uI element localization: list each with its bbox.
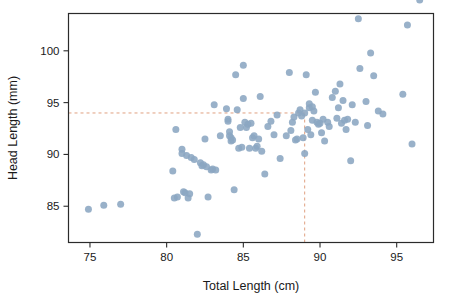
- data-point: [217, 132, 224, 139]
- data-point: [356, 65, 363, 72]
- data-point: [370, 72, 377, 79]
- data-point: [303, 71, 310, 78]
- data-point: [211, 101, 218, 108]
- x-tick-label: 90: [314, 251, 327, 263]
- data-point: [379, 111, 386, 118]
- data-point: [343, 126, 350, 133]
- data-point: [300, 134, 307, 141]
- data-point: [399, 91, 406, 98]
- data-point: [246, 145, 253, 152]
- data-point: [344, 116, 351, 123]
- y-tick-label: 95: [47, 97, 60, 109]
- data-point: [355, 15, 362, 22]
- data-point: [340, 97, 347, 104]
- data-point: [326, 123, 333, 130]
- data-point: [409, 141, 416, 148]
- data-point: [172, 126, 179, 133]
- data-point: [186, 190, 193, 197]
- data-point: [223, 105, 230, 112]
- data-point: [287, 127, 294, 134]
- x-tick-label: 80: [160, 251, 173, 263]
- data-point: [404, 21, 411, 28]
- data-point: [321, 137, 328, 144]
- data-point: [329, 94, 336, 101]
- data-point: [347, 157, 354, 164]
- data-point: [117, 201, 124, 208]
- y-tick-label: 100: [40, 45, 59, 57]
- data-point: [248, 120, 255, 127]
- scatter-plot-figure: 7580859095 859095100 Total Length (cm) H…: [0, 0, 454, 307]
- y-axis-title: Head Length (mm): [6, 76, 20, 180]
- data-point: [349, 101, 356, 108]
- x-tick-label: 85: [237, 251, 250, 263]
- data-point: [267, 118, 274, 125]
- data-point: [234, 106, 241, 113]
- data-point: [194, 231, 201, 238]
- data-point: [212, 166, 219, 173]
- x-tick-label: 95: [390, 251, 403, 263]
- data-point: [100, 202, 107, 209]
- data-point: [335, 104, 342, 111]
- data-point: [301, 150, 308, 157]
- y-tick-label: 90: [47, 148, 60, 160]
- data-point: [277, 155, 284, 162]
- x-axis-title: Total Length (cm): [203, 279, 300, 293]
- data-point: [310, 107, 317, 114]
- plot-canvas: 7580859095 859095100 Total Length (cm) H…: [0, 0, 454, 307]
- data-point: [240, 62, 247, 69]
- data-point: [261, 171, 268, 178]
- data-point: [229, 136, 236, 143]
- data-point: [232, 71, 239, 78]
- data-point: [307, 131, 314, 138]
- data-point: [255, 135, 262, 142]
- data-point: [352, 119, 359, 126]
- data-point: [205, 193, 212, 200]
- data-point: [238, 144, 245, 151]
- data-point: [231, 186, 238, 193]
- data-point: [191, 156, 198, 163]
- data-point: [258, 148, 265, 155]
- data-point: [364, 122, 371, 129]
- data-point: [174, 193, 181, 200]
- data-point: [257, 93, 264, 100]
- data-point: [363, 98, 370, 105]
- data-point: [169, 168, 176, 175]
- x-tick-label: 75: [84, 251, 97, 263]
- data-point: [225, 118, 232, 125]
- data-point: [294, 135, 301, 142]
- data-point: [332, 88, 339, 95]
- data-point: [274, 112, 281, 119]
- data-point: [271, 131, 278, 138]
- data-point: [201, 135, 208, 142]
- data-point: [336, 80, 343, 87]
- data-point: [85, 206, 92, 213]
- data-point: [367, 49, 374, 56]
- data-point: [286, 69, 293, 76]
- y-tick-label: 85: [47, 200, 60, 212]
- data-point: [312, 89, 319, 96]
- data-point: [240, 95, 247, 102]
- data-point: [318, 129, 325, 136]
